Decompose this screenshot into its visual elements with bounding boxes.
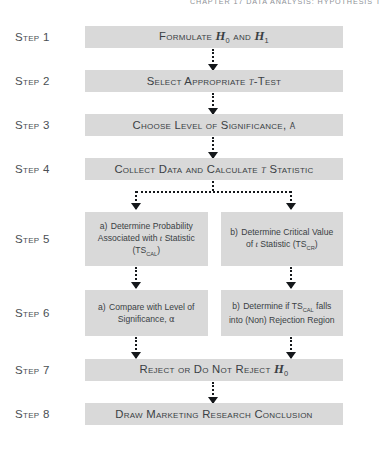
step-6-box-a-text: a)Compare with Level of Significance, α (91, 301, 202, 325)
step-6-box-a: a)Compare with Level of Significance, α (85, 290, 208, 336)
step-label-2: Step 2 (0, 75, 85, 87)
flow-row-step-8: Step 8 Draw Marketing Research Conclusio… (0, 403, 385, 425)
step-label-4: Step 4 (0, 163, 85, 175)
step-5-box-a-text: a)Determine Probability Associated with … (91, 220, 202, 258)
step-5-boxes: a)Determine Probability Associated with … (85, 212, 385, 266)
step-6-box-b-text: b)Determine if TSCAL falls into (Non) Re… (227, 300, 338, 326)
step-label-6: Step 6 (0, 307, 85, 319)
step-5-box-b-text: b)Determine Critical Value of t Statisti… (227, 226, 338, 252)
step-1-box-text: Formulate H0 and H1 (159, 29, 269, 45)
flow-row-step-5: Step 5 a)Determine Probability Associate… (0, 212, 385, 266)
connector-arrow-icon (286, 282, 296, 289)
step-1-boxes: Formulate H0 and H1 (85, 26, 385, 48)
step-3-box-text: Choose Level of Significance, α (133, 119, 296, 132)
connector-arrow-icon (131, 352, 141, 359)
step-label-3: Step 3 (0, 119, 85, 131)
step-4-box-text: Collect Data and Calculate t Statistic (114, 163, 313, 175)
connector-arrow-icon (131, 203, 141, 210)
step-7-box-text: Reject or Do Not Reject H0 (140, 362, 289, 378)
step-7-boxes: Reject or Do Not Reject H0 (85, 359, 385, 381)
connector-2-to-3 (0, 93, 385, 114)
flow-row-step-6: Step 6 a)Compare with Level of Significa… (0, 290, 385, 336)
connector-arrow-icon (286, 352, 296, 359)
step-8-box: Draw Marketing Research Conclusion (85, 403, 343, 425)
connector-dots (212, 181, 214, 191)
step-label-1: Step 1 (0, 31, 85, 43)
flow-row-step-2: Step 2 Select Appropriate t-Test (0, 70, 385, 92)
step-1-box: Formulate H0 and H1 (85, 26, 343, 48)
connector-arrow-icon (131, 282, 141, 289)
step-2-box-text: Select Appropriate t-Test (147, 75, 281, 87)
connector-3-to-4 (0, 137, 385, 158)
step-2-box: Select Appropriate t-Test (85, 70, 343, 92)
step-label-5: Step 5 (0, 233, 85, 245)
connector-7-to-8 (0, 382, 385, 403)
step-4-box: Collect Data and Calculate t Statistic (85, 158, 343, 180)
step-8-box-text: Draw Marketing Research Conclusion (115, 408, 312, 420)
step-6-boxes: a)Compare with Level of Significance, α … (85, 290, 385, 336)
flow-row-step-1: Step 1 Formulate H0 and H1 (0, 26, 385, 48)
step-label-7: Step 7 (0, 364, 85, 376)
running-head: CHAPTER 17 DATA ANALYSIS: HYPOTHESIS T (0, 0, 385, 6)
step-6-box-b: b)Determine if TSCAL falls into (Non) Re… (221, 290, 344, 336)
connector-arrow-icon (286, 203, 296, 210)
connector-1-to-2 (0, 49, 385, 70)
step-5-box-a: a)Determine Probability Associated with … (85, 212, 208, 266)
step-3-box: Choose Level of Significance, α (85, 114, 343, 136)
step-3-boxes: Choose Level of Significance, α (85, 114, 385, 136)
connector-horizontal-dots (136, 191, 291, 193)
flow-row-step-4: Step 4 Collect Data and Calculate t Stat… (0, 158, 385, 180)
step-5-box-b: b)Determine Critical Value of t Statisti… (221, 212, 344, 266)
flow-row-step-3: Step 3 Choose Level of Significance, α (0, 114, 385, 136)
step-8-boxes: Draw Marketing Research Conclusion (85, 403, 385, 425)
step-7-box: Reject or Do Not Reject H0 (85, 359, 343, 381)
step-2-boxes: Select Appropriate t-Test (85, 70, 385, 92)
step-4-boxes: Collect Data and Calculate t Statistic (85, 158, 385, 180)
flow-row-step-7: Step 7 Reject or Do Not Reject H0 (0, 359, 385, 381)
step-label-8: Step 8 (0, 408, 85, 420)
